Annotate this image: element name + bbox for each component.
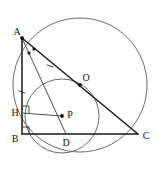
- vertex-dot-a: [20, 36, 24, 40]
- angle-bisector-dot-2: [32, 47, 35, 50]
- point-label-b: B: [12, 133, 19, 144]
- point-label-c: C: [143, 130, 150, 141]
- point-label-o: O: [82, 72, 89, 83]
- geometry-figure-svg: A O C B H P D: [0, 0, 158, 173]
- point-label-p: P: [67, 109, 73, 120]
- angle-bisector-dot-1: [27, 51, 30, 54]
- point-label-h: H: [11, 107, 18, 118]
- point-label-a: A: [13, 26, 21, 37]
- segment-hp: [22, 113, 62, 116]
- congruence-tick-ao: [47, 65, 53, 67]
- geometry-figure-container: A O C B H P D: [0, 0, 158, 173]
- vertex-dot-p: [60, 114, 64, 118]
- point-label-d: D: [62, 137, 69, 148]
- vertex-dot-o: [78, 83, 82, 87]
